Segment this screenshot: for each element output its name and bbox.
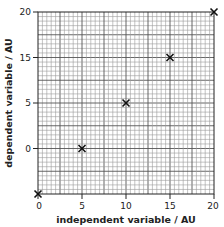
y-axis: 20 15 5 0 dependent variable / AU xyxy=(3,7,38,168)
x-tick-label-15: 15 xyxy=(164,201,175,211)
y-tick-label-0: 0 xyxy=(25,144,31,154)
y-tick-label-5: 5 xyxy=(25,98,31,108)
y-tick-label-20: 20 xyxy=(20,7,32,17)
x-tick-label-20: 20 xyxy=(207,201,219,211)
scatter-chart: 20 15 5 0 dependent variable / AU 0 5 10… xyxy=(0,0,224,227)
y-tick-label-15: 15 xyxy=(20,53,31,63)
y-axis-title: dependent variable / AU xyxy=(3,38,14,167)
x-tick-label-10: 10 xyxy=(120,201,132,211)
x-tick-label-5: 5 xyxy=(79,201,85,211)
x-tick-label-0: 0 xyxy=(36,201,42,211)
x-axis-title: independent variable / AU xyxy=(56,214,195,225)
x-axis: 0 5 10 15 20 independent variable / AU xyxy=(36,194,219,225)
